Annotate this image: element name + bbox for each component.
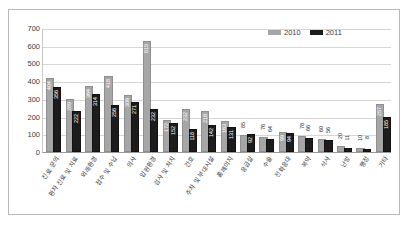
bar-value-label: 64 bbox=[268, 126, 274, 132]
x-axis-label: 간호 bbox=[184, 155, 197, 169]
bar-value-label: 418 bbox=[106, 79, 112, 88]
legend-item-2011: 2011 bbox=[310, 28, 342, 37]
y-axis-tick-label: 100 bbox=[10, 131, 40, 139]
bar-value-label: 615 bbox=[144, 44, 150, 53]
bar-group: 257185 bbox=[373, 29, 392, 152]
x-axis-label: 입원환경 bbox=[138, 155, 157, 179]
bar-value-wrap: 152 bbox=[170, 126, 176, 148]
bar-value-wrap: 56 bbox=[325, 127, 331, 149]
bar-group: 7664 bbox=[256, 29, 275, 152]
bar-2011: 256 bbox=[111, 105, 119, 152]
bar-value-wrap: 66 bbox=[306, 125, 312, 147]
bar-value-wrap: 142 bbox=[209, 128, 215, 150]
bar-group: 8592 bbox=[237, 29, 256, 152]
bar-value-label: 218 bbox=[203, 114, 209, 123]
bar-value-label: 20 bbox=[338, 133, 344, 139]
bar-value-label: 232 bbox=[151, 112, 157, 121]
y-axis-tick-label: 700 bbox=[10, 25, 40, 33]
bar-2011: 64 bbox=[266, 139, 274, 152]
bar-value-wrap: 615 bbox=[144, 44, 150, 66]
bar-group: 418256 bbox=[101, 29, 120, 152]
bar-value-label: 94 bbox=[287, 136, 293, 142]
bar-2011: 142 bbox=[208, 125, 216, 152]
bar-value-wrap: 256 bbox=[112, 108, 118, 130]
bars-layer: 4043562892223643144182563092716152321721… bbox=[43, 29, 391, 152]
bar-value-wrap: 185 bbox=[384, 120, 390, 142]
y-axis-tick-label: 500 bbox=[10, 60, 40, 68]
bar-2011: 131 bbox=[227, 127, 235, 152]
chart-legend: 2010 2011 bbox=[268, 28, 342, 37]
legend-label-2011: 2011 bbox=[326, 28, 342, 37]
bar-value-label: 271 bbox=[132, 105, 138, 114]
bar-2011: 92 bbox=[247, 134, 255, 152]
bar-group: 2011 bbox=[334, 29, 353, 152]
bar-2011: 152 bbox=[169, 123, 177, 152]
bar-value-label: 56 bbox=[326, 127, 332, 133]
bar-value-label: 152 bbox=[171, 126, 177, 135]
x-axis-label: 수술 bbox=[261, 155, 274, 169]
x-axis-label: 의사 bbox=[125, 155, 138, 169]
bar-value-label: 256 bbox=[112, 108, 118, 117]
bar-value-label: 11 bbox=[345, 135, 351, 141]
bar-2011: 66 bbox=[305, 138, 313, 152]
bar-group: 9994 bbox=[276, 29, 295, 152]
bar-value-label: 314 bbox=[93, 97, 99, 106]
bar-value-label: 289 bbox=[67, 102, 73, 111]
x-axis-label: 홈페이지 bbox=[215, 155, 234, 179]
x-axis-label: 행정 bbox=[358, 155, 371, 169]
x-axis-label: 응급실 bbox=[238, 155, 254, 174]
bar-value-label: 85 bbox=[241, 122, 247, 128]
x-axis-labels: 진료 문의환자 진료 및 치료외래환경접수 및 수납의사입원환경검사 및 처치간… bbox=[42, 155, 391, 213]
bar-value-wrap: 20 bbox=[338, 133, 344, 155]
bar-value-label: 257 bbox=[377, 107, 383, 116]
bar-value-label: 232 bbox=[183, 112, 189, 121]
x-axis-label: 진료 문의 bbox=[40, 155, 60, 180]
y-axis-tick-label: 200 bbox=[10, 114, 40, 122]
bar-group: 289222 bbox=[62, 29, 81, 152]
y-axis: 0100200300400500600700 bbox=[6, 29, 40, 153]
bar-value-label: 78 bbox=[300, 123, 306, 129]
bar-value-wrap: 271 bbox=[132, 105, 138, 127]
x-axis-label: 난방 bbox=[339, 155, 352, 169]
bar-group: 172152 bbox=[159, 29, 178, 152]
bar-value-wrap: 356 bbox=[54, 90, 60, 112]
bar-2011: 222 bbox=[72, 111, 80, 152]
bar-2011: 314 bbox=[92, 94, 100, 152]
x-axis-label: 전화응대 bbox=[274, 155, 293, 179]
plot-area: 4043562892223643144182563092716152321721… bbox=[42, 29, 391, 153]
bar-value-wrap: 232 bbox=[151, 112, 157, 134]
bar-2011: 56 bbox=[324, 140, 332, 152]
bar-value-wrap: 418 bbox=[105, 79, 111, 101]
bar-group: 309271 bbox=[121, 29, 140, 152]
bar-group: 232118 bbox=[179, 29, 198, 152]
bar-group: 364314 bbox=[82, 29, 101, 152]
bar-group: 404356 bbox=[43, 29, 62, 152]
chart-container: 0100200300400500600700 40435628922236431… bbox=[0, 0, 408, 246]
legend-swatch-2011 bbox=[310, 30, 323, 35]
x-axis-label: 기타 bbox=[377, 155, 390, 169]
bar-2011: 232 bbox=[150, 109, 158, 152]
bar-value-label: 142 bbox=[209, 128, 215, 137]
bar-2011: 271 bbox=[131, 102, 139, 152]
bar-2011: 94 bbox=[286, 133, 294, 152]
bar-value-wrap: 131 bbox=[228, 130, 234, 152]
bar-value-label: 185 bbox=[384, 120, 390, 129]
bar-value-wrap: 118 bbox=[190, 132, 196, 154]
bar-value-wrap: 222 bbox=[73, 114, 79, 136]
bar-2011: 11 bbox=[344, 148, 352, 152]
bar-group: 218142 bbox=[198, 29, 217, 152]
bar-value-label: 60 bbox=[319, 126, 325, 132]
legend-item-2010: 2010 bbox=[268, 28, 301, 37]
bar-value-label: 8 bbox=[365, 136, 371, 139]
x-axis-label: 외래환경 bbox=[80, 155, 99, 179]
y-axis-tick-label: 600 bbox=[10, 43, 40, 51]
bar-value-label: 118 bbox=[190, 132, 196, 141]
bar-2011: 356 bbox=[53, 87, 61, 152]
bar-value-wrap: 64 bbox=[267, 126, 273, 148]
legend-swatch-2010 bbox=[268, 30, 281, 35]
legend-label-2010: 2010 bbox=[284, 28, 301, 37]
bar-2011: 8 bbox=[363, 149, 371, 152]
bar-2011: 118 bbox=[189, 129, 197, 152]
bar-group: 6056 bbox=[314, 29, 333, 152]
bar-group: 108 bbox=[353, 29, 372, 152]
